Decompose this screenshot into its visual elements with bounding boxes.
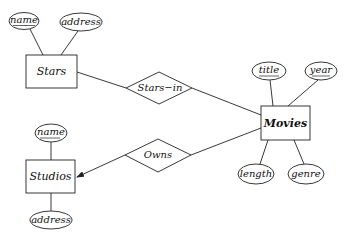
relationship-owns-label: Owns bbox=[144, 149, 172, 160]
attr-movies-year: year bbox=[305, 62, 337, 80]
relationship-stars-in: Stars−in bbox=[126, 72, 192, 104]
attr-stars-address-label: address bbox=[61, 16, 101, 27]
edge-movies-title bbox=[270, 80, 273, 106]
edge-owns-studios-arrow bbox=[77, 155, 125, 177]
attr-movies-length: length bbox=[238, 164, 274, 184]
edge-starsin-movies bbox=[192, 88, 261, 115]
attr-movies-length-label: length bbox=[240, 168, 272, 179]
edge-movies-genre bbox=[294, 140, 304, 164]
attr-movies-year-label: year bbox=[309, 64, 334, 75]
entity-studios-label: Studios bbox=[30, 170, 72, 183]
attr-movies-genre-label: genre bbox=[291, 168, 321, 179]
edge-movies-length bbox=[260, 140, 268, 164]
entity-stars-label: Stars bbox=[37, 65, 67, 78]
attr-movies-genre: genre bbox=[288, 164, 324, 184]
entity-movies-label: Movies bbox=[263, 117, 307, 130]
attr-studios-address-label: address bbox=[31, 214, 71, 225]
edge-stars-address bbox=[61, 31, 78, 55]
relationship-owns: Owns bbox=[125, 139, 191, 172]
er-diagram: Stars name address Stars−in Movies title… bbox=[0, 0, 348, 240]
entity-stars: Stars bbox=[26, 55, 77, 88]
attr-stars-name: name bbox=[9, 13, 39, 30]
edge-movies-owns bbox=[191, 128, 261, 155]
edge-stars-starsin bbox=[77, 72, 126, 88]
entity-movies: Movies bbox=[261, 106, 310, 140]
edge-movies-year bbox=[288, 80, 318, 106]
attr-studios-address: address bbox=[30, 211, 72, 229]
attr-studios-name-label: name bbox=[37, 126, 65, 137]
entity-studios: Studios bbox=[26, 160, 75, 193]
relationship-stars-in-label: Stars−in bbox=[138, 82, 183, 93]
attr-movies-title-label: title bbox=[259, 64, 279, 75]
attr-movies-title: title bbox=[252, 62, 286, 80]
edge-stars-name bbox=[30, 29, 43, 55]
attr-stars-name-label: name bbox=[10, 14, 38, 25]
attr-studios-name: name bbox=[35, 124, 67, 142]
attr-stars-address: address bbox=[60, 13, 102, 31]
